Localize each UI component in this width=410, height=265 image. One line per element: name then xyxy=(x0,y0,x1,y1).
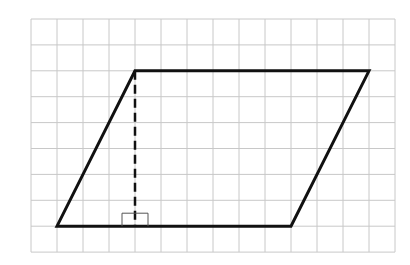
grid-lines xyxy=(31,19,395,252)
diagram-canvas xyxy=(0,0,410,265)
parallelogram-diagram xyxy=(0,0,410,265)
